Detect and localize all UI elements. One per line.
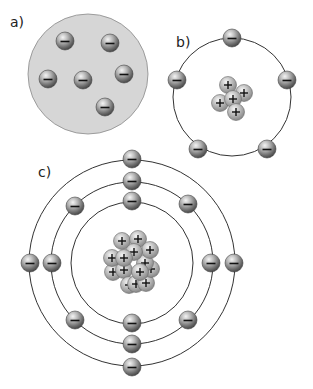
electron	[123, 150, 141, 168]
electron	[179, 195, 197, 213]
electron	[258, 140, 276, 158]
panel-c	[21, 150, 243, 376]
electron	[101, 34, 119, 52]
proton	[228, 104, 245, 121]
electron	[123, 172, 141, 190]
electron	[123, 358, 141, 376]
electron	[189, 140, 207, 158]
diagram-canvas	[0, 0, 313, 389]
atomic-models-figure: a) b) c)	[0, 0, 313, 389]
electron	[39, 70, 57, 88]
panel-label-c: c)	[38, 164, 51, 180]
orbit-ring	[71, 202, 193, 324]
electron	[96, 98, 114, 116]
panel-label-b: b)	[176, 34, 190, 50]
electron	[66, 311, 84, 329]
electron	[223, 29, 241, 47]
electron	[168, 71, 186, 89]
electron	[123, 314, 141, 332]
electron	[179, 311, 197, 329]
nucleus	[212, 77, 253, 121]
proton	[116, 250, 133, 267]
electron	[202, 254, 220, 272]
electron	[115, 65, 133, 83]
panel-label-a: a)	[10, 14, 24, 30]
proton	[142, 242, 159, 259]
electron	[278, 71, 296, 89]
electron	[66, 197, 84, 215]
panel-a	[28, 14, 148, 134]
electron	[225, 254, 243, 272]
electron	[21, 254, 39, 272]
electron	[123, 192, 141, 210]
electron	[56, 32, 74, 50]
nucleus	[104, 231, 160, 294]
proton	[132, 264, 149, 281]
electron	[43, 254, 61, 272]
electron	[74, 71, 92, 89]
electron	[123, 335, 141, 353]
